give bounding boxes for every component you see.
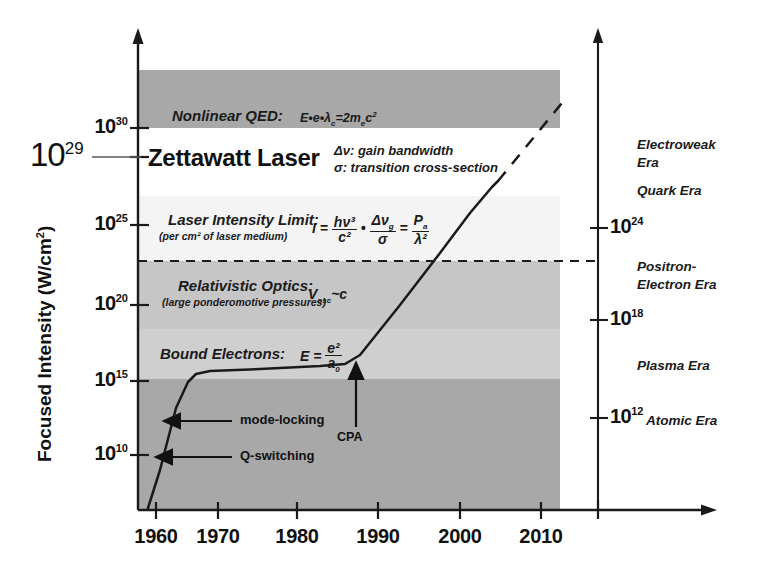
x-tick-label-1990: 1990 — [338, 525, 418, 548]
be-den: a0 — [325, 356, 341, 374]
zettawatt-laser-label: Zettawatt Laser — [148, 144, 320, 172]
tick-exponent: 18 — [631, 307, 643, 319]
era-plasma-line1: Plasma Era — [637, 357, 710, 375]
tick-mantissa: 10 — [610, 405, 631, 427]
be-frac: e² a0 — [325, 341, 341, 374]
y-tick-label-10e10: 1010 — [66, 442, 128, 465]
tick-exponent: 12 — [631, 405, 643, 417]
be-num: e² — [325, 341, 341, 356]
lil-num2: Δνg — [370, 213, 396, 232]
ro-sub-osc: osc — [317, 296, 331, 305]
nlqed-expr: E•e•λ — [300, 111, 331, 125]
tick-mantissa: 10 — [95, 442, 116, 464]
era-label-electroweak: Electroweak Era — [637, 136, 716, 172]
era-quark-line1: Quark Era — [637, 182, 702, 200]
lil-num2-main: Δν — [372, 212, 389, 228]
tick-mantissa: 10 — [610, 215, 631, 237]
tick-mantissa: 10 — [95, 292, 116, 314]
tick-exponent: 30 — [116, 115, 128, 127]
lil-I: I — [312, 220, 316, 236]
tick-mantissa: 10 — [95, 368, 116, 390]
band-relativistic-optics — [138, 261, 560, 329]
tick-exponent: 20 — [116, 292, 128, 304]
era-electroweak-line2: Era — [637, 154, 716, 172]
y-axis-title-text: Focused Intensity (W/cm — [34, 238, 55, 462]
x-tick-label-1980: 1980 — [257, 525, 337, 548]
lil-eq1: = — [320, 220, 328, 236]
region-label-relativistic-optics: Relativistic Optics: — [178, 277, 313, 294]
ro-V: V — [308, 286, 317, 302]
tick-exponent: 24 — [631, 215, 643, 227]
y-tick-label-10e20: 1020 — [66, 292, 128, 315]
lil-den2: σ — [370, 232, 396, 246]
page-bleed-ghost-top — [404, 30, 410, 54]
callout-exponent: 29 — [65, 139, 84, 158]
y-axis-title: Focused Intensity (W/cm2) — [34, 226, 56, 462]
y-axis-title-sup: 2 — [34, 232, 46, 238]
annotation-cpa: CPA — [337, 430, 362, 444]
right-tick-label-10e24: 1024 — [610, 215, 644, 238]
zettawatt-notes: Δν: gain bandwidth σ: transition cross-s… — [334, 142, 498, 176]
be-E: E — [300, 348, 309, 364]
tick-exponent: 10 — [116, 442, 128, 454]
x-tick-label-2000: 2000 — [420, 525, 500, 548]
annotation-mode-locking: mode-locking — [240, 412, 325, 427]
tick-exponent: 15 — [116, 368, 128, 380]
lil-eq2: = — [400, 220, 408, 236]
be-eq: = — [313, 348, 321, 364]
x-tick-label-2010: 2010 — [501, 525, 581, 548]
y-tick-label-10e25: 1025 — [66, 212, 128, 235]
lil-frac2: Δνg σ — [370, 213, 396, 246]
x-tick-label-1970: 1970 — [178, 525, 258, 548]
right-axis-arrowhead — [593, 28, 603, 43]
y-tick-label-10e30: 1030 — [66, 115, 128, 138]
region-label-nonlinear-qed: Nonlinear QED: — [172, 107, 283, 124]
formula-nonlinear-qed: E•e•λc=2mec2 — [300, 110, 377, 128]
era-atomic-line1: Atomic Era — [646, 412, 717, 430]
right-tick-label-10e12: 1012 — [610, 405, 644, 428]
tick-exponent: 25 — [116, 212, 128, 224]
tick-mantissa: 10 — [95, 212, 116, 234]
region-label-laser-intensity-limit: Laser Intensity Limit: — [168, 211, 319, 228]
callout-10e29: 1029 — [30, 136, 84, 174]
lil-num3: Pa — [412, 213, 430, 232]
tick-mantissa: 10 — [95, 115, 116, 137]
era-label-plasma: Plasma Era — [637, 357, 710, 375]
figure-root: Focused Intensity (W/cm2) 1029 1030 1025… — [0, 0, 758, 575]
ro-tail: ~c — [331, 286, 347, 302]
formula-relativistic-optics: Vosc~c — [308, 286, 347, 305]
nlqed-eq: =2m — [335, 111, 360, 125]
y-tick-label-10e15: 1015 — [66, 368, 128, 391]
era-label-positron-electron: Positron- Electron Era — [637, 258, 717, 294]
nlqed-sup-2: 2 — [372, 110, 376, 119]
note-cross-section: σ: transition cross-section — [334, 159, 498, 176]
x-axis-arrowhead — [701, 505, 717, 516]
tick-mantissa: 10 — [610, 307, 631, 329]
lil-frac1: hν³ c² — [332, 215, 357, 245]
era-label-atomic: Atomic Era — [646, 412, 717, 430]
region-sublabel-relativistic-optics: (large ponderomotive pressures) — [162, 296, 326, 308]
era-electroweak-line1: Electroweak — [637, 136, 716, 154]
lil-frac3: Pa λ² — [412, 213, 430, 246]
lil-num1: hν³ — [332, 215, 357, 230]
era-positron-line1: Positron- — [637, 258, 717, 276]
lil-dot: • — [361, 220, 366, 236]
annotation-q-switching: Q-switching — [240, 448, 314, 463]
note-gain-bandwidth: Δν: gain bandwidth — [334, 142, 498, 159]
band-subrelativistic — [138, 379, 560, 510]
lil-num3-main: P — [414, 212, 423, 228]
right-tick-label-10e18: 1018 — [610, 307, 644, 330]
region-label-bound-electrons: Bound Electrons: — [160, 345, 285, 362]
formula-laser-intensity-limit: I = hν³ c² • Δνg σ = Pa λ² — [312, 213, 429, 246]
lil-num2-sub: g — [389, 222, 394, 231]
y-axis-title-tail: ) — [34, 226, 55, 232]
lil-num3-sub: a — [423, 222, 427, 231]
era-label-quark: Quark Era — [637, 182, 702, 200]
era-positron-line2: Electron Era — [637, 276, 717, 294]
lil-den1: c² — [332, 230, 357, 244]
region-sublabel-laser-intensity-limit: (per cm² of laser medium) — [159, 230, 287, 242]
y-axis-arrowhead — [133, 28, 144, 44]
be-den-sub: 0 — [335, 365, 339, 374]
formula-bound-electrons: E = e² a0 — [300, 341, 342, 374]
callout-mantissa: 10 — [30, 136, 65, 173]
